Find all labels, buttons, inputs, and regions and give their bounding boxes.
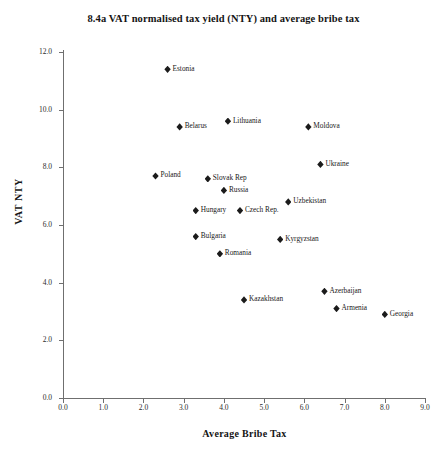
y-tick-label: 8.0 (22, 162, 52, 171)
x-tick-label: 2.0 (128, 403, 158, 412)
y-axis-title: VAT NTY (13, 122, 24, 282)
data-point-label: Ukraine (325, 159, 349, 168)
data-point-label: Bulgaria (201, 231, 226, 240)
data-point-label: Armenia (342, 303, 368, 312)
data-point-label: Russia (229, 185, 248, 194)
x-tick-label: 6.0 (289, 403, 319, 412)
data-point-label: Estonia (173, 64, 195, 73)
x-tick-label: 3.0 (169, 403, 199, 412)
x-tick-label: 5.0 (249, 403, 279, 412)
x-tick-label: 0.0 (48, 403, 78, 412)
y-tick-label: 4.0 (22, 278, 52, 287)
x-tick-label: 7.0 (330, 403, 360, 412)
x-tick-label: 1.0 (88, 403, 118, 412)
data-point-label: Hungary (201, 205, 227, 214)
data-point-label: Uzbekistan (293, 196, 326, 205)
x-axis-title: Average Bribe Tax (63, 428, 426, 439)
data-point-label: Belarus (185, 121, 207, 130)
data-point-label: Kyrgyzstan (285, 234, 319, 243)
x-axis-line (63, 398, 426, 399)
y-tick-label: 10.0 (22, 105, 52, 114)
data-point-label: Azerbaijan (329, 286, 361, 295)
data-point-label: Kazakhstan (249, 294, 283, 303)
data-point-label: Romania (225, 248, 251, 257)
data-point-label: Moldova (313, 121, 339, 130)
chart-title: 8.4a VAT normalised tax yield (NTY) and … (0, 13, 447, 24)
x-tick-label: 9.0 (410, 403, 440, 412)
data-point-label: Georgia (390, 309, 413, 318)
data-point-label: Lithuania (233, 116, 261, 125)
x-tick-label: 4.0 (209, 403, 239, 412)
y-tick-label: 2.0 (22, 335, 52, 344)
data-point-label: Poland (161, 170, 181, 179)
plot-area (63, 52, 425, 398)
x-tick-label: 8.0 (370, 403, 400, 412)
scatter-chart: 8.4a VAT normalised tax yield (NTY) and … (0, 0, 447, 468)
y-tick-label: 6.0 (22, 220, 52, 229)
data-point-label: Slovak Rep (213, 173, 247, 182)
data-point-label: Czech Rep. (245, 205, 279, 214)
y-tick-label: 12.0 (22, 47, 52, 56)
y-tick-label: 0.0 (22, 393, 52, 402)
